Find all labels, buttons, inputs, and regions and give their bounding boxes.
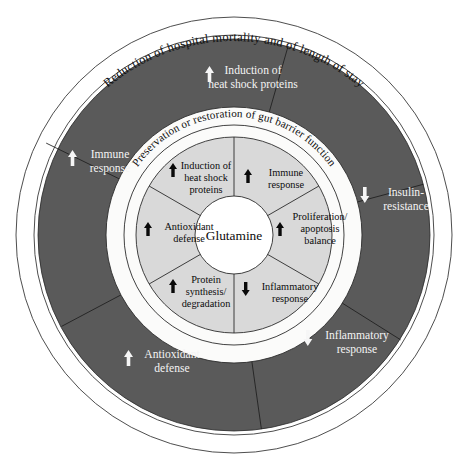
dark-segment-hsp-line2: heat shock proteins: [208, 78, 298, 91]
dark-segment-antioxidant-line1: Antioxidant: [144, 348, 200, 361]
dark-segment-insulin-line2: resistance: [383, 200, 429, 213]
inner-segment-inflammatory-line2: response: [272, 293, 308, 304]
inner-segment-hsp-line3: proteins: [189, 184, 222, 195]
dark-segment-hsp-line1: Induction of: [225, 64, 282, 77]
dark-segment-insulin-line1: Insulin-: [388, 186, 424, 199]
inner-segment-protein-line3: degradation: [182, 298, 231, 309]
dark-segment-immune-line2: response: [90, 162, 131, 175]
inner-segment-immune-line1: Immune: [269, 167, 304, 178]
dark-segment-inflammatory-line2: response: [337, 343, 378, 356]
diagram-canvas: Reduction of hospital mortality and of l…: [0, 0, 463, 471]
dark-segment-antioxidant-line2: defense: [154, 362, 189, 375]
dark-segment-immune-line1: Immune: [91, 148, 130, 161]
inner-segment-proliferation-line3: balance: [304, 235, 336, 246]
inner-segment-inflammatory-line1: Inflammatory: [262, 281, 319, 292]
core-label-glutamine: Glutamine: [206, 228, 263, 243]
dark-segment-inflammatory-line1: Inflammatory: [325, 329, 389, 342]
inner-segment-proliferation-line2: apoptosis: [301, 223, 340, 234]
inner-segment-protein-line2: synthesis/: [186, 286, 227, 297]
inner-segment-hsp-line2: heat shock: [184, 172, 229, 183]
inner-segment-protein-line1: Protein: [191, 274, 221, 285]
inner-segment-proliferation-line1: Proliferation/: [293, 211, 348, 222]
glutamine-diagram: Reduction of hospital mortality and of l…: [0, 0, 463, 471]
inner-segment-antioxidant-line2: defense: [173, 233, 205, 244]
inner-segment-hsp-line1: Induction of: [181, 160, 232, 171]
inner-segment-immune-line2: response: [268, 179, 304, 190]
